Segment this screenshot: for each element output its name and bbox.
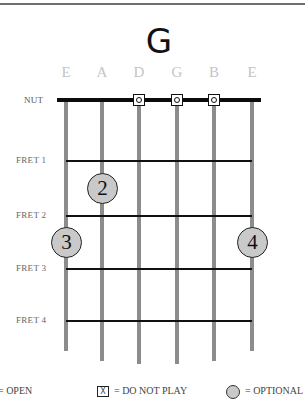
legend-do-not-play: X= DO NOT PLAY (97, 385, 187, 397)
fret-label-3: FRET 3 (16, 263, 46, 273)
nut (57, 98, 261, 102)
string-label-low-e: E (56, 63, 76, 81)
open-string-marker-icon (171, 94, 183, 106)
open-string-marker-icon (133, 94, 145, 106)
fret-label-4: FRET 4 (16, 315, 46, 325)
chord-title: G (0, 21, 305, 61)
nut-label: NUT (24, 95, 43, 105)
open-string-marker-icon (208, 94, 220, 106)
finger-dot-3: 3 (51, 227, 82, 258)
top-rule (0, 3, 305, 5)
fret-3 (66, 268, 252, 270)
fret-label-1: FRET 1 (16, 155, 46, 165)
string-label-a: A (92, 63, 112, 81)
fret-1 (66, 160, 252, 162)
string-label-b: B (204, 63, 224, 81)
string-label-d: D (129, 63, 149, 81)
fret-4 (66, 320, 252, 322)
string-a (100, 102, 104, 361)
string-d (137, 102, 141, 364)
do-not-play-icon: X (97, 386, 109, 397)
string-g (175, 102, 179, 364)
finger-dot-4: 4 (237, 227, 268, 258)
legend-optional: = OPTIONAL (226, 385, 303, 399)
string-label-high-e: E (242, 63, 262, 81)
optional-circle-icon (226, 385, 240, 399)
string-b (212, 102, 216, 361)
legend-open-label: = OPEN (0, 385, 32, 396)
fret-label-2: FRET 2 (16, 210, 46, 220)
finger-dot-2: 2 (87, 173, 118, 204)
string-label-g: G (167, 63, 187, 81)
legend-open: = OPEN (0, 385, 32, 397)
legend-optional-label: = OPTIONAL (245, 385, 303, 396)
legend-do-not-play-label: = DO NOT PLAY (114, 385, 187, 396)
fret-2 (66, 215, 252, 217)
